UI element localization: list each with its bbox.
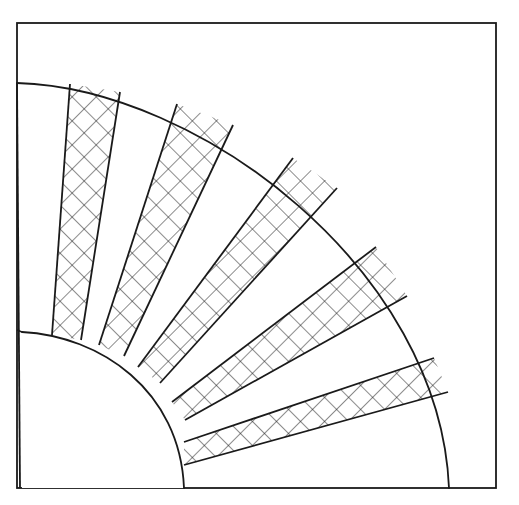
blade-1-hatch xyxy=(52,84,120,340)
fan-quilt-diagram xyxy=(0,0,519,505)
